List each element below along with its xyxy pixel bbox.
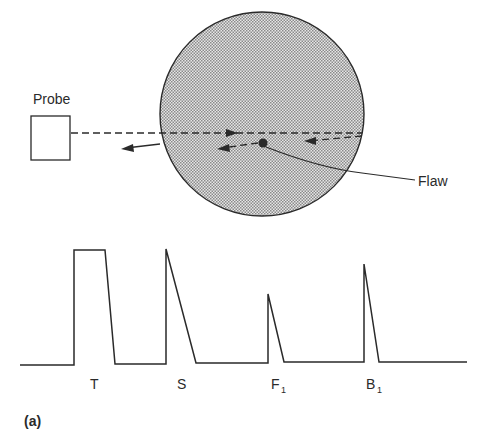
probe-box xyxy=(31,116,70,160)
return-arrow-icon xyxy=(121,144,134,152)
ascan-waveform xyxy=(20,249,467,365)
probe-label: Probe xyxy=(33,91,71,107)
peak-label-t: T xyxy=(90,376,99,392)
peak-label-s: S xyxy=(177,376,186,392)
panel-label: (a) xyxy=(24,413,41,429)
peak-sub-b1: 1 xyxy=(377,385,382,395)
ultrasonic-inspection-diagram: Probe Flaw T S F 1 B 1 (a) xyxy=(0,0,485,434)
peak-sub-f1: 1 xyxy=(281,385,286,395)
peak-label-b1: B xyxy=(366,376,375,392)
flaw-label: Flaw xyxy=(418,173,448,189)
flaw-dot xyxy=(259,139,268,148)
specimen-circle xyxy=(160,12,364,216)
peak-label-f1: F xyxy=(271,376,280,392)
